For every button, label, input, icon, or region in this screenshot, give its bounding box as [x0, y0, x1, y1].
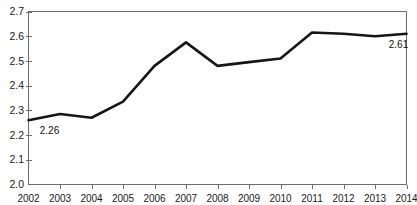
line-chart: 2.02.12.22.32.42.52.62.7 200220032004200…: [0, 0, 417, 205]
y-tick-label: 2.1: [9, 153, 24, 165]
data-point-label: 2.61: [389, 39, 409, 50]
x-tick-label: 2008: [206, 193, 229, 204]
y-tick-label: 2.5: [9, 55, 24, 67]
data-point-label: 2.26: [40, 125, 60, 136]
x-tick-label: 2007: [175, 193, 198, 204]
x-tick-label: 2012: [332, 193, 355, 204]
x-tick-label: 2006: [143, 193, 166, 204]
x-tick-label: 2002: [17, 193, 40, 204]
chart-background: [0, 0, 417, 205]
x-tick-label: 2003: [49, 193, 72, 204]
x-tick-label: 2014: [395, 193, 417, 204]
chart-canvas: 2.02.12.22.32.42.52.62.7 200220032004200…: [0, 0, 417, 205]
x-tick-label: 2004: [80, 193, 103, 204]
x-tick-label: 2005: [112, 193, 135, 204]
x-tick-label: 2013: [364, 193, 387, 204]
y-tick-label: 2.0: [9, 178, 24, 190]
y-tick-label: 2.7: [9, 5, 24, 17]
y-tick-label: 2.3: [9, 104, 24, 116]
y-tick-label: 2.4: [9, 79, 24, 91]
x-tick-label: 2011: [301, 193, 323, 204]
x-tick-label: 2010: [269, 193, 292, 204]
x-tick-label: 2009: [238, 193, 261, 204]
y-tick-label: 2.6: [9, 30, 24, 42]
y-tick-label: 2.2: [9, 129, 24, 141]
